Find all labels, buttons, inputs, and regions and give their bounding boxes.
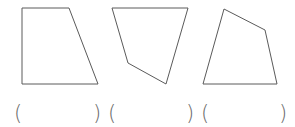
quadrilateral-2 bbox=[112, 8, 188, 84]
answer-1-open-paren: ( bbox=[14, 101, 22, 125]
answer-2-open-paren: ( bbox=[108, 101, 116, 125]
answer-1-close-paren: ) bbox=[93, 101, 101, 125]
quadrilateral-3 bbox=[203, 9, 277, 84]
answer-3-open-paren: ( bbox=[201, 101, 209, 125]
answer-2-blank[interactable] bbox=[120, 101, 186, 125]
answer-1-blank[interactable] bbox=[26, 101, 94, 125]
quadrilateral-1 bbox=[22, 8, 98, 84]
answer-3-blank[interactable] bbox=[213, 101, 279, 125]
answer-3-close-paren: ) bbox=[279, 101, 287, 125]
answer-2-close-paren: ) bbox=[186, 101, 194, 125]
